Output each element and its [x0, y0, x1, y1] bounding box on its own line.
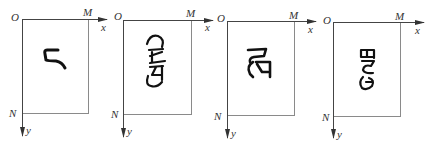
- origin-label: O: [11, 11, 19, 23]
- y-axis-label: y: [126, 125, 132, 137]
- x-axis-label: x: [414, 24, 420, 36]
- origin-label: O: [114, 10, 122, 22]
- corner-m-label: M: [288, 9, 299, 21]
- image-frame: [334, 23, 401, 117]
- image-frame: [23, 20, 89, 114]
- tibetan-character-glyph: [360, 50, 374, 89]
- tibetan-character-glyph: [248, 49, 270, 77]
- panel-2: O M x N y: [110, 7, 213, 137]
- corner-m-label: M: [82, 6, 93, 18]
- panel-4: O M x N y: [321, 10, 424, 140]
- diagram-canvas: O M x N y O M x N y O M x N y: [0, 0, 429, 148]
- panel-3: O M x N y: [213, 9, 316, 139]
- y-axis-label: y: [25, 124, 31, 136]
- corner-n-label: N: [213, 110, 222, 122]
- x-axis-label: x: [307, 23, 313, 35]
- origin-label: O: [323, 14, 331, 26]
- x-axis-label: x: [204, 21, 210, 33]
- y-axis-label: y: [336, 128, 342, 140]
- origin-label: O: [217, 12, 225, 24]
- corner-m-label: M: [185, 7, 196, 19]
- corner-m-label: M: [394, 10, 405, 22]
- tibetan-character-glyph: [45, 50, 65, 68]
- corner-n-label: N: [8, 107, 17, 119]
- panel-1: O M x N y: [8, 6, 107, 136]
- x-axis-label: x: [100, 21, 106, 33]
- tibetan-character-glyph: [147, 36, 165, 87]
- corner-n-label: N: [110, 108, 119, 120]
- y-axis-label: y: [230, 127, 236, 139]
- corner-n-label: N: [321, 111, 330, 123]
